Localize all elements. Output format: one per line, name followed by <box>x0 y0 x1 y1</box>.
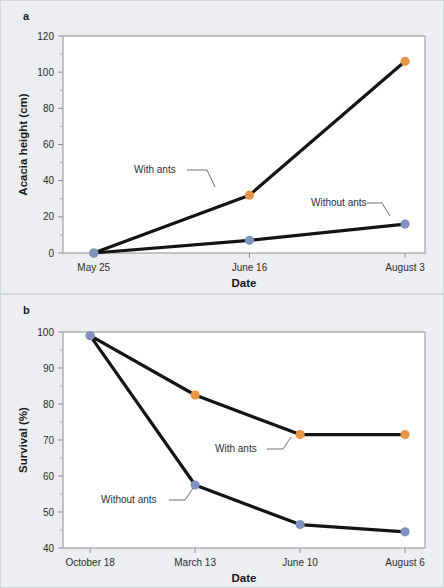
figure-container: a 020406080100120May 25June 16August 3Da… <box>0 0 444 588</box>
chart-b-svg: 405060708090100October 18March 13June 10… <box>1 295 444 588</box>
x-tick-label: May 25 <box>77 262 110 273</box>
x-tick-label: October 18 <box>65 557 115 568</box>
data-point-with-ants <box>296 430 305 439</box>
x-tick-label: August 3 <box>385 262 425 273</box>
plot-frame <box>63 36 425 253</box>
data-point-without-ants <box>86 331 95 340</box>
data-point-with-ants <box>191 390 200 399</box>
data-point-with-ants <box>400 430 409 439</box>
chart-panel-a: a 020406080100120May 25June 16August 3Da… <box>0 0 444 294</box>
y-tick-label: 120 <box>37 31 54 42</box>
y-tick-label: 60 <box>43 471 55 482</box>
data-point-without-ants <box>400 219 409 228</box>
y-tick-label: 40 <box>43 175 55 186</box>
data-point-without-ants <box>400 527 409 536</box>
y-tick-label: 100 <box>37 67 54 78</box>
chart-panel-b: b 405060708090100October 18March 13June … <box>0 294 444 588</box>
y-tick-label: 40 <box>43 543 55 554</box>
data-point-with-ants <box>400 57 409 66</box>
x-axis-title: Date <box>232 572 257 584</box>
data-point-without-ants <box>89 248 98 257</box>
data-point-without-ants <box>296 520 305 529</box>
data-point-with-ants <box>245 191 254 200</box>
y-tick-label: 20 <box>43 211 55 222</box>
annotation-label-without-ants: Without ants <box>101 494 157 505</box>
y-tick-label: 100 <box>37 327 54 338</box>
annotation-label-without-ants: Without ants <box>311 197 367 208</box>
y-tick-label: 80 <box>43 399 55 410</box>
plot-frame <box>63 332 425 548</box>
y-axis-title: Acacia height (cm) <box>17 93 29 195</box>
x-tick-label: June 16 <box>232 262 268 273</box>
x-tick-label: June 10 <box>282 557 318 568</box>
data-point-without-ants <box>245 236 254 245</box>
annotation-label-with-ants: With ants <box>215 443 257 454</box>
y-tick-label: 70 <box>43 435 55 446</box>
y-tick-label: 0 <box>48 248 54 259</box>
x-axis-title: Date <box>232 277 257 289</box>
chart-a-svg: 020406080100120May 25June 16August 3Date… <box>1 1 444 295</box>
y-tick-label: 90 <box>43 363 55 374</box>
data-point-without-ants <box>191 480 200 489</box>
y-tick-label: 50 <box>43 507 55 518</box>
x-tick-label: August 6 <box>385 557 425 568</box>
y-axis-title: Survival (%) <box>17 407 29 473</box>
x-tick-label: March 13 <box>174 557 216 568</box>
y-tick-label: 80 <box>43 103 55 114</box>
annotation-label-with-ants: With ants <box>134 164 176 175</box>
y-tick-label: 60 <box>43 139 55 150</box>
